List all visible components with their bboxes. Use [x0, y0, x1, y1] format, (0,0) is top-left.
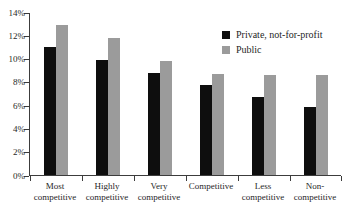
legend-swatch-public	[222, 46, 230, 54]
legend-item-private: Private, not-for-profit	[222, 27, 322, 42]
bar-group	[30, 12, 82, 175]
bar-group	[82, 12, 134, 175]
bar-series1-cat5	[316, 75, 328, 175]
y-axis-label: 8%	[1, 78, 25, 87]
bar-series0-cat4	[252, 97, 264, 175]
bar-series1-cat3	[212, 74, 224, 175]
y-axis-label: 2%	[1, 148, 25, 157]
y-axis-label: 14%	[1, 9, 25, 18]
bar-series0-cat3	[200, 85, 212, 175]
bar-series1-cat1	[108, 38, 120, 175]
category-label: Competitive	[183, 181, 239, 192]
legend-label-private: Private, not-for-profit	[236, 29, 322, 40]
bar-series0-cat2	[148, 73, 160, 175]
category-label: Highly competitive	[79, 181, 135, 202]
y-axis-label: 0%	[1, 172, 25, 181]
category-label: Non- competitive	[287, 181, 343, 202]
legend-label-public: Public	[236, 44, 262, 55]
bar-series1-cat0	[56, 25, 68, 175]
bar-series0-cat5	[304, 107, 316, 175]
y-axis-label: 12%	[1, 32, 25, 41]
bar-chart: 0%2%4%6%8%10%12%14% Private, not-for-pro…	[0, 0, 350, 210]
category-label: Most competitive	[27, 181, 83, 202]
category-label: Less competitive	[235, 181, 291, 202]
bar-series0-cat1	[96, 60, 108, 175]
y-axis-label: 6%	[1, 102, 25, 111]
bar-series1-cat4	[264, 75, 276, 175]
legend: Private, not-for-profit Public	[222, 27, 322, 57]
y-axis-label: 10%	[1, 55, 25, 64]
bar-series0-cat0	[44, 47, 56, 175]
legend-item-public: Public	[222, 42, 322, 57]
y-axis-label: 4%	[1, 125, 25, 134]
bar-series1-cat2	[160, 61, 172, 175]
bar-group	[134, 12, 186, 175]
legend-swatch-private	[222, 31, 230, 39]
category-label: Very competitive	[131, 181, 187, 202]
